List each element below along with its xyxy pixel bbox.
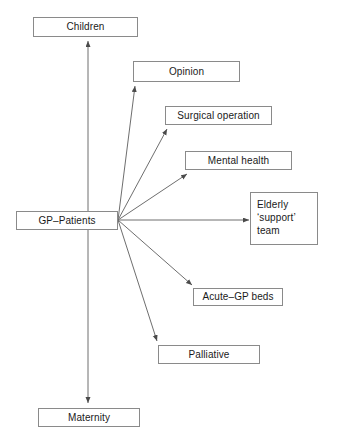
node-gp-patients[interactable]: GP–Patients <box>16 211 118 230</box>
node-acute-gp-beds[interactable]: Acute–GP beds <box>193 288 283 306</box>
node-mental-health[interactable]: Mental health <box>185 151 292 170</box>
edge-gp-patients-to-palliative <box>118 220 157 341</box>
edge-gp-patients-to-surgical-operation <box>118 129 167 220</box>
edge-gp-patients-to-opinion <box>118 86 135 220</box>
node-surgical-operation[interactable]: Surgical operation <box>165 106 272 125</box>
edge-gp-patients-to-acute-gp-beds <box>118 220 192 285</box>
node-elderly-support-team[interactable]: Elderly ‘support’ team <box>250 192 318 245</box>
diagram-canvas: Children Opinion Surgical operation Ment… <box>0 0 337 443</box>
node-children[interactable]: Children <box>33 17 138 37</box>
node-maternity[interactable]: Maternity <box>38 408 140 427</box>
node-opinion[interactable]: Opinion <box>133 61 240 82</box>
edge-gp-patients-to-mental-health <box>118 174 187 220</box>
node-palliative[interactable]: Palliative <box>158 345 260 364</box>
